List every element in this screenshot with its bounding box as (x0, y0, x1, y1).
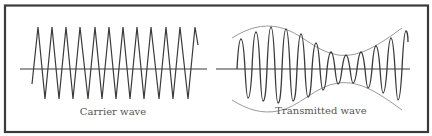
envelope-upper (232, 26, 402, 55)
carrier-label: Carrier wave (80, 106, 146, 117)
transmitted-panel: Transmitted wave (216, 26, 410, 116)
carrier-panel: Carrier wave (20, 27, 207, 117)
transmitted-wave (237, 27, 408, 103)
wave-diagram: Carrier wave Transmitted wave (0, 0, 432, 136)
transmitted-label: Transmitted wave (275, 105, 366, 116)
carrier-wave (32, 27, 198, 99)
